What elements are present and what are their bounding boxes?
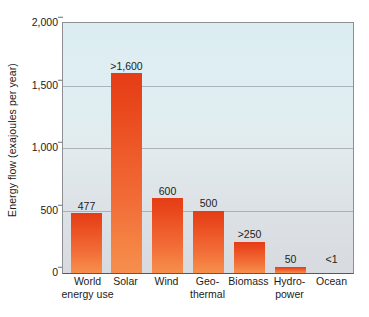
bar-label-hydropower: 50 xyxy=(285,254,297,265)
bar-group-hydropower[interactable]: 50 xyxy=(275,23,306,273)
x-axis-tick-labels: World energy use Solar Wind Geo- thermal… xyxy=(62,275,352,315)
bar-group-wind[interactable]: 600 xyxy=(152,23,183,273)
y-tick-1000-label: 1,000 xyxy=(32,141,58,153)
y-axis-tick-labels: 2,000 1,500 1,000 500 0 xyxy=(22,22,58,272)
y-tick-1500: 1,500 xyxy=(22,79,58,90)
bars-layer: 477 >1,600 600 500 >250 xyxy=(63,23,353,273)
bar-geothermal[interactable] xyxy=(193,211,224,274)
bar-biomass[interactable] xyxy=(234,242,265,273)
x-tick-geothermal-line2: thermal xyxy=(177,288,238,301)
x-tick-geothermal-line1: Geo- xyxy=(196,275,219,287)
y-tick-2000-mark xyxy=(58,17,63,18)
bar-label-geothermal: 500 xyxy=(200,198,218,209)
bar-hydropower[interactable] xyxy=(275,267,306,273)
bar-label-biomass: >250 xyxy=(238,229,262,240)
y-tick-2000-label: 2,000 xyxy=(32,16,58,28)
bar-label-ocean: <1 xyxy=(326,254,338,265)
bar-group-ocean[interactable]: <1 xyxy=(316,23,347,273)
x-tick-solar-line1: Solar xyxy=(113,275,138,287)
bar-group-biomass[interactable]: >250 xyxy=(234,23,265,273)
bar-label-world-energy-use: 477 xyxy=(78,201,96,212)
y-tick-1500-label: 1,500 xyxy=(32,78,58,90)
y-axis-title: Energy flow (exajoules per year) xyxy=(0,0,24,280)
y-tick-1000: 1,000 xyxy=(22,142,58,153)
y-tick-500: 500 xyxy=(22,204,58,215)
bar-label-wind: 600 xyxy=(159,186,177,197)
y-tick-2000: 2,000 xyxy=(22,17,58,28)
y-axis-title-label: Energy flow (exajoules per year) xyxy=(6,63,18,217)
bar-solar[interactable] xyxy=(111,73,142,273)
bar-group-solar[interactable]: >1,600 xyxy=(111,23,142,273)
bar-group-world-energy-use[interactable]: 477 xyxy=(71,23,102,273)
x-tick-hydropower-line1: Hydro- xyxy=(274,275,306,287)
bar-world-energy-use[interactable] xyxy=(71,213,102,273)
y-tick-500-label: 500 xyxy=(40,203,58,215)
x-tick-ocean: Ocean xyxy=(302,275,361,288)
x-tick-world-energy-use-line2: energy use xyxy=(52,288,123,301)
plot-area: 477 >1,600 600 500 >250 xyxy=(62,22,354,274)
x-tick-ocean-line1: Ocean xyxy=(316,275,347,287)
bar-label-solar: >1,600 xyxy=(110,61,142,72)
bar-group-geothermal[interactable]: 500 xyxy=(193,23,224,273)
bar-wind[interactable] xyxy=(152,198,183,273)
x-tick-hydropower-line2: power xyxy=(260,288,319,301)
energy-flow-bar-chart: Energy flow (exajoules per year) 2,000 1… xyxy=(0,0,369,317)
x-tick-wind-line1: Wind xyxy=(155,275,179,287)
